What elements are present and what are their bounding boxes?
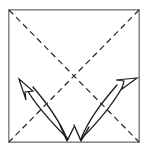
origami-diagram: Square sheet with both diagonals creased… xyxy=(0,0,147,151)
fold-diagram-canvas xyxy=(0,0,147,151)
